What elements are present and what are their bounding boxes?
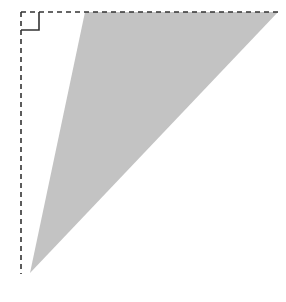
- shaded-triangle: [30, 12, 278, 273]
- right-angle-marker: [21, 12, 39, 30]
- figure-canvas: [0, 0, 286, 302]
- geometry-figure: [0, 0, 286, 302]
